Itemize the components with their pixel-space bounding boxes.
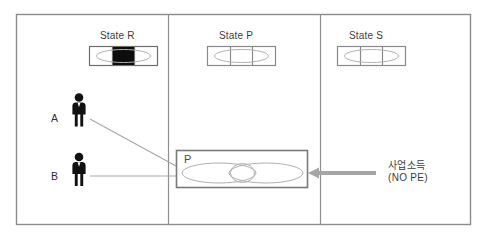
person-b-label: B — [51, 170, 58, 182]
p-box-group — [177, 151, 308, 188]
state-p-group — [208, 47, 276, 66]
state-r-caption: State R — [100, 30, 135, 42]
person-a-label: A — [51, 112, 58, 124]
state-s-caption: State S — [349, 30, 383, 42]
state-s-group — [338, 47, 406, 66]
income-annotation-korean: 사업소득 — [388, 160, 428, 172]
income-annotation: 사업소득 (NO PE) — [388, 160, 428, 184]
state-r-group — [90, 47, 158, 66]
diagram-canvas: State R State P State S A B P 사업소득 (NO P… — [0, 0, 488, 236]
income-annotation-english: (NO PE) — [388, 172, 428, 184]
p-box-label: P — [184, 153, 192, 166]
state-p-caption: State P — [219, 30, 253, 42]
p-box — [177, 151, 308, 188]
